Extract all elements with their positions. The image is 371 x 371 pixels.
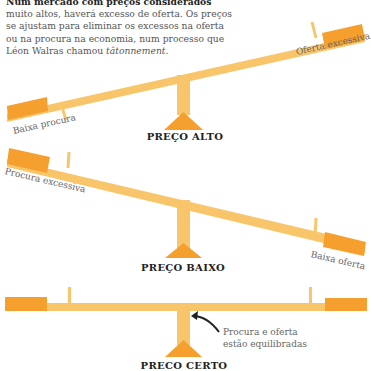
- fulcrum-triangle-icon: [165, 243, 202, 258]
- beam-post-right: [312, 22, 316, 38]
- label-high-price: PREÇO ALTO: [147, 131, 224, 142]
- beam-post-right: [315, 218, 316, 236]
- beam: [5, 303, 367, 311]
- weight-block-left: [5, 297, 47, 311]
- beam-post-left: [68, 152, 69, 168]
- label-right-price: PRECO CERTO: [141, 360, 228, 371]
- fulcrum-triangle-icon: [165, 340, 202, 357]
- fulcrum-triangle-icon: [164, 112, 203, 130]
- equilibrium-note: Procura e oferta estão equilibradas: [223, 326, 307, 350]
- beam-post-left: [68, 287, 71, 303]
- seesaw-high-price: [7, 22, 365, 130]
- beam-post-right: [309, 287, 312, 303]
- seesaw-right-price: [5, 287, 367, 357]
- weight-block-right: [325, 298, 367, 311]
- label-low-price: PREÇO BAIXO: [141, 262, 225, 273]
- seesaw-low-price: [7, 148, 366, 258]
- arrowhead-icon: [191, 311, 198, 320]
